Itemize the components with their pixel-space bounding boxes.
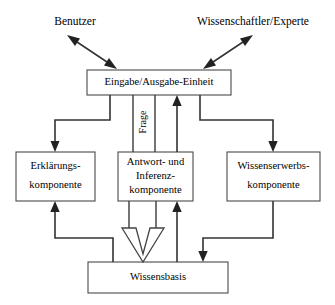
box-label-wissenserwerbskomponente-line2: komponente [247, 179, 300, 190]
box-label-wissensbasis: Wissensbasis [130, 271, 186, 282]
box-wissenserwerbskomponente [227, 152, 320, 201]
edge-label-frage: Frage [137, 110, 148, 133]
connection-inferenz-to-wissensbasis [122, 201, 164, 262]
connection-wissensbasis-to-erklaerung [50, 201, 113, 262]
actor-label-wissenschaftler-experte: Wissenschaftler/Experte [197, 15, 309, 28]
expert-system-architecture-diagram: Benutzer Wissenschaftler/Experte Eingabe… [0, 0, 335, 305]
box-label-antwort-inferenz-line2: Inferenz- [136, 170, 175, 181]
actor-label-benutzer: Benutzer [54, 15, 96, 27]
box-label-eingabe-ausgabe-einheit: Eingabe/Ausgabe-Einheit [105, 76, 214, 87]
box-label-antwort-inferenz-line3: komponente [129, 184, 182, 195]
box-label-wissenserwerbskomponente-line1: Wissenserwerbs- [238, 160, 310, 171]
connection-wissenserwerb-to-wissensbasis [198, 201, 273, 262]
connection-benutzer-to-eingabe [67, 35, 117, 69]
box-label-erklaerungskomponente-line2: komponente [29, 179, 82, 190]
connection-eingabe-to-erklaerung [51, 95, 111, 152]
connection-inferenz-to-eingabe [172, 95, 181, 152]
connection-wissenschaftler-to-eingabe [203, 35, 253, 69]
box-label-erklaerungskomponente-line1: Erklärungs- [30, 160, 80, 171]
connection-eingabe-to-wissenserwerb [200, 95, 278, 152]
box-erklaerungskomponente [16, 152, 95, 201]
box-label-antwort-inferenz-line1: Antwort- und [127, 156, 185, 167]
connection-wissensbasis-to-inferenz [172, 201, 181, 262]
diagram-canvas: Benutzer Wissenschaftler/Experte Eingabe… [0, 0, 335, 305]
